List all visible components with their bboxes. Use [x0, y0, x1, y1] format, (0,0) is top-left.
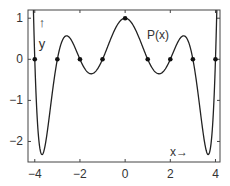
axes-frame	[28, 10, 220, 162]
axis-ticks	[28, 10, 220, 162]
x-axis-label: x→	[170, 145, 188, 159]
x-tick-label: −4	[28, 167, 42, 181]
node-marker	[55, 57, 60, 62]
y-axis-label: y	[39, 36, 46, 51]
x-tick-label: 0	[122, 167, 129, 181]
y-arrow-label: ↑	[39, 15, 46, 30]
y-tick-label: −2	[9, 134, 23, 148]
x-tick-label: 2	[167, 167, 174, 181]
node-marker	[123, 16, 128, 21]
runge-polynomial-chart: −4−2024−2−101 ↑ y P(x) x→	[0, 0, 230, 186]
curve-label: P(x)	[147, 28, 169, 42]
node-marker	[78, 57, 83, 62]
y-tick-label: 0	[16, 52, 23, 66]
node-marker	[32, 57, 37, 62]
x-tick-label: 4	[212, 167, 219, 181]
polynomial-curve	[28, 0, 220, 155]
y-tick-label: 1	[16, 11, 23, 25]
node-marker	[168, 57, 173, 62]
x-tick-label: −2	[73, 167, 87, 181]
node-marker	[213, 57, 218, 62]
node-marker	[100, 57, 105, 62]
node-marker	[145, 57, 150, 62]
y-tick-label: −1	[9, 93, 23, 107]
interpolation-nodes	[32, 16, 217, 62]
node-marker	[191, 57, 196, 62]
